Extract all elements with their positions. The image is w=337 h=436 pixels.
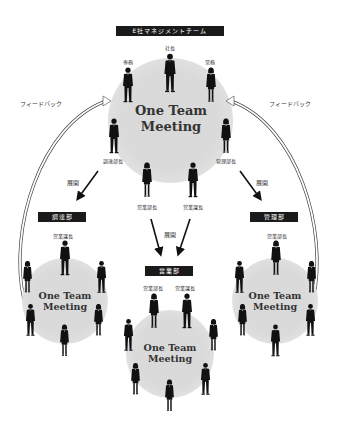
meeting-line2: Meeting	[135, 353, 205, 364]
sales-member-figure	[148, 293, 160, 329]
deploy-label-left: 展開	[67, 178, 79, 187]
sales-leader-label-1: 営業部長	[138, 284, 168, 291]
sales-meeting-label: One Team Meeting	[135, 342, 205, 365]
sales-member-figure	[123, 318, 134, 352]
admin-member-figure	[305, 303, 316, 337]
admin-meeting-label: One Team Meeting	[240, 290, 310, 313]
deploy-label-right: 展開	[256, 178, 268, 187]
admin-member-figure	[237, 303, 248, 337]
sales-member-figure	[208, 318, 219, 352]
meeting-line1: One Team	[135, 342, 205, 353]
sales-member-figure	[200, 362, 211, 396]
procurement-member-figure	[59, 323, 70, 358]
sales-leader-label-2: 営業課長	[170, 284, 200, 291]
procurement-member-figure	[96, 260, 107, 294]
sales-badge: 営業部	[145, 266, 193, 276]
admin-leader-label: 営業部長	[262, 232, 292, 239]
admin-member-figure	[270, 240, 282, 276]
procurement-badge: 調達部	[38, 212, 86, 222]
sales-member-figure	[164, 378, 175, 413]
procurement-member-figure	[59, 240, 71, 276]
meeting-line1: One Team	[30, 290, 100, 301]
admin-member-figure	[270, 323, 281, 358]
procurement-leader-label: 営業課長	[48, 232, 78, 239]
procurement-member-figure	[93, 303, 104, 337]
sales-member-figure	[130, 362, 141, 396]
meeting-line1: One Team	[240, 290, 310, 301]
procurement-member-figure	[22, 260, 33, 294]
deploy-label-center: 展開	[164, 230, 176, 239]
admin-member-figure	[306, 260, 317, 294]
meeting-line2: Meeting	[30, 301, 100, 312]
procurement-meeting-label: One Team Meeting	[30, 290, 100, 313]
admin-badge: 管理部	[250, 212, 298, 222]
procurement-member-figure	[25, 303, 36, 337]
meeting-line2: Meeting	[240, 301, 310, 312]
sales-member-figure	[181, 293, 193, 329]
admin-member-figure	[234, 260, 245, 294]
